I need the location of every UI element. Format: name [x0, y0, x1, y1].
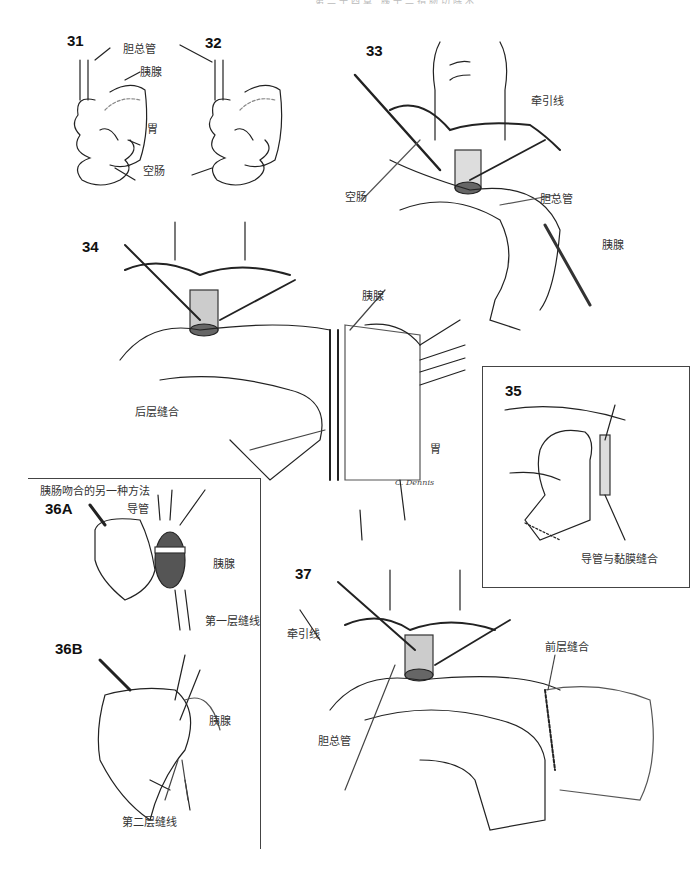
figure-37-drawing: [300, 570, 653, 830]
label-duct-to-mucosa-35: 导管与黏膜缝合: [581, 550, 658, 566]
label-jejunum-31: 空肠: [143, 162, 165, 178]
figure-36b-drawing: [98, 655, 220, 820]
label-pancreas-34: 胰腺: [362, 287, 384, 303]
figure-35-drawing: [505, 405, 625, 540]
figure-number-32: 32: [205, 34, 222, 51]
label-pancreas-31: 胰腺: [140, 63, 162, 79]
label-traction-suture-37: 牵引线: [287, 625, 320, 641]
artist-signature: C. Dennis: [395, 478, 434, 487]
label-pancreas-33: 胰腺: [602, 236, 624, 252]
label-pancreas-36b: 胰腺: [209, 712, 231, 728]
label-alternative-method-36a: 胰肠吻合的另一种方法: [40, 482, 150, 498]
figure-number-36b: 36B: [55, 640, 83, 657]
figure-number-34: 34: [82, 238, 99, 255]
figure-31-drawing: [74, 48, 146, 185]
label-second-layer-suture-36b: 第二层缝线: [122, 813, 177, 829]
label-jejunum-33: 空肠: [345, 188, 367, 204]
label-stomach-31: 胃: [147, 120, 158, 136]
label-catheter-36a: 导管: [127, 500, 149, 516]
figure-number-35: 35: [505, 382, 522, 399]
figure-33-drawing: [355, 42, 590, 330]
figure-number-36a: 36A: [45, 500, 73, 517]
label-pancreas-36a: 胰腺: [213, 555, 235, 571]
label-common-bile-duct-31: 胆总管: [123, 40, 156, 56]
label-common-bile-duct-33: 胆总管: [540, 190, 573, 206]
label-first-layer-suture-36a: 第一层缝线: [205, 612, 260, 628]
label-traction-suture-33: 牵引线: [531, 92, 564, 108]
figure-number-31: 31: [67, 32, 84, 49]
label-stomach-34: 胃: [430, 440, 441, 456]
figure-number-33: 33: [366, 42, 383, 59]
figure-number-37: 37: [295, 565, 312, 582]
figure-32-drawing: [180, 45, 282, 185]
label-anterior-layer-suture-37: 前层缝合: [545, 638, 589, 654]
surgical-illustrations: C. Dennis: [0, 0, 692, 885]
label-common-bile-duct-37: 胆总管: [318, 732, 351, 748]
illustration-page: 第二十四章 胰十二指肠切除术: [0, 0, 692, 885]
label-posterior-layer-suture-34: 后层缝合: [135, 403, 179, 419]
